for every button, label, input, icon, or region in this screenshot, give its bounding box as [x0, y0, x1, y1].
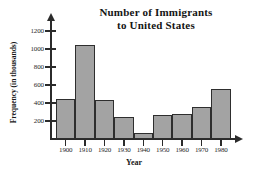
immigration-bar-chart: Number of Immigrants to United States Fr…: [0, 0, 258, 180]
y-tick-label: 600: [14, 81, 44, 89]
y-tick-label: 200: [14, 117, 44, 125]
y-tick: [45, 30, 56, 32]
y-tick: [45, 102, 56, 104]
y-axis-line: [50, 20, 52, 140]
y-axis-arrow: [47, 13, 55, 21]
bar-1950: [153, 115, 172, 139]
y-tick-label: 400: [14, 99, 44, 107]
x-tick: [162, 139, 164, 146]
bar-1900: [56, 99, 75, 140]
y-tick-label: 1000: [14, 45, 44, 53]
x-tick: [84, 139, 86, 146]
y-tick: [45, 48, 56, 50]
y-tick-label: 800: [14, 63, 44, 71]
x-tick: [143, 139, 145, 146]
y-tick-label: 1200: [14, 27, 44, 35]
x-tick: [65, 139, 67, 146]
bar-1920: [95, 100, 114, 139]
x-tick-label: 1980: [207, 146, 235, 154]
y-tick: [45, 84, 56, 86]
bar-1960: [172, 114, 191, 139]
bar-1970: [192, 107, 211, 139]
x-tick: [181, 139, 183, 146]
y-tick: [45, 120, 56, 122]
plot-area: 20040060080010001200 1900191019201930194…: [0, 0, 258, 180]
x-tick: [123, 139, 125, 146]
x-axis-arrow: [235, 135, 243, 143]
x-tick: [220, 139, 222, 146]
x-tick: [201, 139, 203, 146]
bar-1910: [75, 45, 94, 140]
x-tick: [104, 139, 106, 146]
y-tick: [45, 66, 56, 68]
bar-1930: [114, 117, 133, 139]
bar-1940: [134, 133, 153, 139]
bar-1980: [211, 89, 230, 139]
